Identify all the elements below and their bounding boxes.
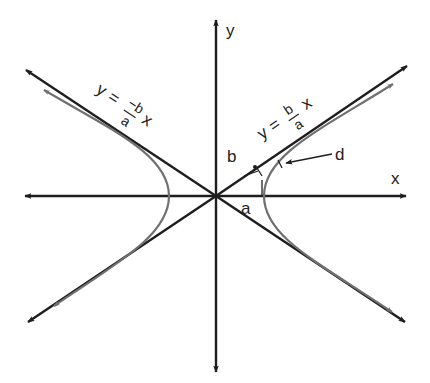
equation-right-numerator: b bbox=[280, 100, 296, 118]
equation-right-equals: = bbox=[265, 114, 284, 135]
segment-b-label: b bbox=[227, 147, 236, 166]
equation-right-x: x bbox=[298, 93, 316, 114]
segment-a-label: a bbox=[241, 199, 251, 218]
x-axis-label: x bbox=[391, 169, 400, 188]
hyperbola-diagram: y x a b d y = −b a x y = b a x bbox=[0, 0, 430, 383]
equation-left-x: x bbox=[139, 110, 157, 131]
distance-d-marker bbox=[278, 154, 332, 168]
distance-d-label: d bbox=[335, 145, 344, 164]
equation-left-asymptote: y = −b a x bbox=[87, 76, 159, 140]
equation-right-asymptote: y = b a x bbox=[251, 90, 321, 153]
equation-right-denominator: a bbox=[290, 115, 306, 133]
equation-left-equals: = bbox=[104, 87, 123, 108]
y-axis-label: y bbox=[226, 21, 235, 40]
equation-left-denominator: a bbox=[118, 112, 134, 130]
